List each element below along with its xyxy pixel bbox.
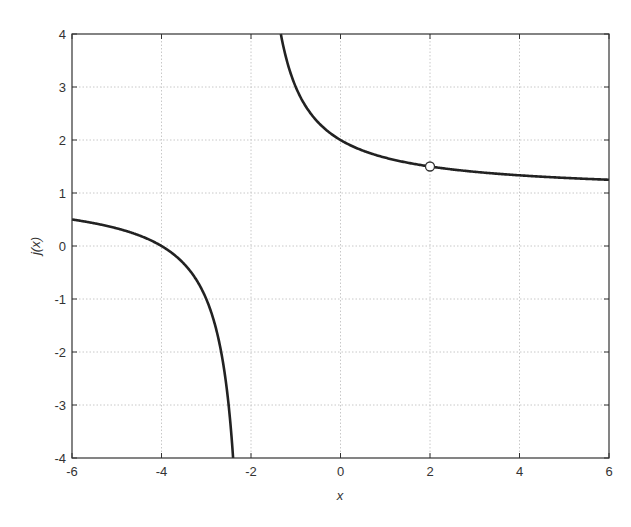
curve-right-branch (281, 34, 609, 180)
x-tick-label: 0 (337, 464, 344, 479)
y-tick-label: -2 (54, 345, 66, 360)
y-tick-label: 2 (59, 133, 66, 148)
y-tick-label: -1 (54, 292, 66, 307)
x-tick-label: 4 (516, 464, 523, 479)
function-plot: -6-4-20246 -4-3-2-101234 x j(x) (0, 0, 631, 527)
y-tick-label: 1 (59, 186, 66, 201)
x-tick-label: -4 (156, 464, 168, 479)
x-tick-labels: -6-4-20246 (66, 464, 612, 479)
y-tick-labels: -4-3-2-101234 (54, 27, 66, 466)
y-tick-label: 0 (59, 239, 66, 254)
y-tick-label: -4 (54, 451, 66, 466)
x-tick-label: 2 (426, 464, 433, 479)
x-tick-label: -6 (66, 464, 78, 479)
open-circle-marker (426, 162, 435, 171)
x-tick-label: -2 (245, 464, 257, 479)
markers (426, 162, 435, 171)
y-tick-label: 3 (59, 80, 66, 95)
y-axis-label: j(x) (28, 237, 43, 257)
y-tick-label: -3 (54, 398, 66, 413)
grid-lines (72, 34, 609, 458)
y-tick-label: 4 (59, 27, 66, 42)
x-axis-label: x (336, 488, 344, 503)
curve-left-branch (72, 220, 233, 459)
x-tick-label: 6 (605, 464, 612, 479)
